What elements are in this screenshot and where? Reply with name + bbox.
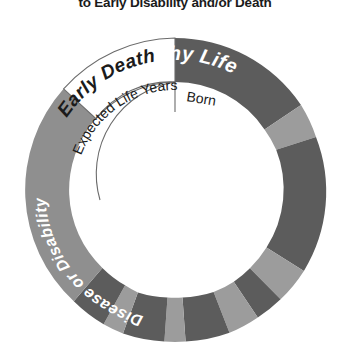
segment-healthy-life — [175, 38, 301, 129]
donut-chart-svg: Healthy Life Early Death Disease or Disa… — [0, 0, 350, 359]
lifespan-ring-figure: to Early Disability and/or Death — [0, 0, 350, 359]
segment-disease-band-4 — [164, 298, 185, 342]
figure-title: to Early Disability and/or Death — [0, 0, 350, 10]
label-born: Born — [186, 88, 218, 108]
segment-healthy-life-2 — [267, 137, 327, 271]
